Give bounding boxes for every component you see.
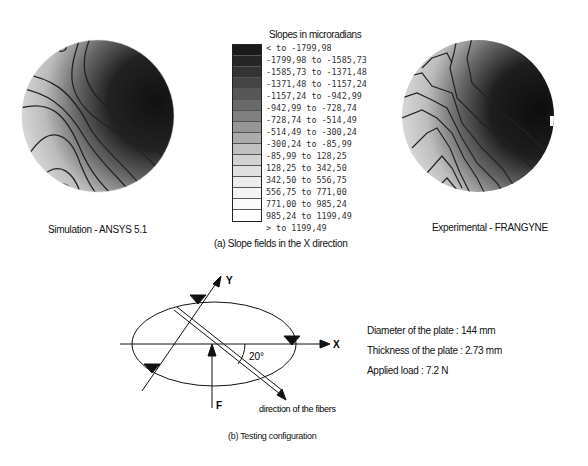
simulation-contour-plot (20, 38, 180, 198)
legend-swatch (233, 210, 261, 221)
legend-swatch (233, 122, 261, 133)
legend-swatch (233, 56, 261, 67)
legend-range-label: -1371,48 to -1157,24 (266, 78, 367, 90)
legend-swatch (233, 188, 261, 199)
legend-range-label: -514,49 to -300,24 (266, 126, 367, 138)
legend-swatch (233, 133, 261, 144)
x-axis-label: X (333, 339, 340, 350)
spec-thickness: Thickness of the plate : 2.73 mm (367, 345, 502, 356)
legend-range-label: 985,24 to 1199,49 (266, 210, 367, 222)
testing-configuration-diagram: Y X F 20° direction of the fibers (120, 260, 360, 430)
legend-swatch (233, 177, 261, 188)
legend-swatch (233, 67, 261, 78)
legend-range-label: 128,25 to 342,50 (266, 162, 367, 174)
legend-range-label: -85,99 to 128,25 (266, 150, 367, 162)
force-label: F (216, 400, 222, 411)
legend-swatch (233, 78, 261, 89)
angle-label: 20° (249, 351, 264, 362)
spec-diameter: Diameter of the plate : 144 mm (367, 325, 495, 336)
legend-swatch (233, 100, 261, 111)
legend-range-label: 556,75 to 771,00 (266, 186, 367, 198)
y-axis-label: Y (226, 275, 233, 286)
legend-range-label: 771,00 to 985,24 (266, 198, 367, 210)
caption-a: (a) Slope fields in the X direction (214, 238, 347, 249)
force-arrow (208, 344, 216, 356)
fiber-direction-label: direction of the fibers (259, 404, 336, 414)
experimental-contour-plot (402, 38, 562, 198)
legend-range-label: -728,74 to -514,49 (266, 114, 367, 126)
legend-labels: < to -1799,98-1799,98 to -1585,73-1585,7… (266, 42, 367, 234)
legend-swatch (233, 111, 261, 122)
legend-range-label: < to -1799,98 (266, 42, 367, 54)
simulation-label: Simulation - ANSYS 5.1 (48, 224, 147, 235)
spec-load: Applied load : 7.2 N (367, 365, 448, 376)
experimental-label: Experimental - FRANGYNE (432, 222, 548, 233)
fiber-arrow (277, 389, 286, 400)
legend-range-label: 342,50 to 556,75 (266, 174, 367, 186)
legend-title: Slopes in microradians (269, 29, 361, 40)
legend-range-label: -942,99 to -728,74 (266, 102, 367, 114)
y-axis (142, 282, 217, 391)
legend-range-label: -300,24 to -85,99 (266, 138, 367, 150)
legend-range-label: -1157,24 to -942,99 (266, 90, 367, 102)
legend-swatch (233, 166, 261, 177)
legend-swatch (233, 144, 261, 155)
legend-range-label: > to 1199,49 (266, 222, 367, 234)
legend-swatch (233, 45, 261, 56)
caption-b: (b) Testing configuration (228, 431, 316, 441)
legend-range-label: -1799,98 to -1585,73 (266, 54, 367, 66)
x-axis-arrow (320, 340, 330, 348)
legend-range-label: -1585,73 to -1371,48 (266, 66, 367, 78)
legend-color-bar (232, 44, 262, 222)
legend-swatch (233, 89, 261, 100)
legend-swatch (233, 155, 261, 166)
legend-swatch (233, 199, 261, 210)
